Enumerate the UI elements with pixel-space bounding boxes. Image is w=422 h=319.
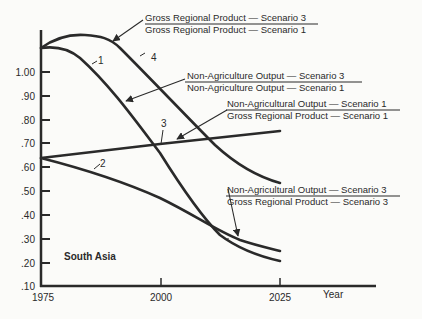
curve-2-number: 2 <box>100 158 106 169</box>
annotation-line: Gross Regional Product — Scenario 1 <box>227 110 388 121</box>
annotation-line: Gross Regional Product — Scenario 3 <box>145 12 306 23</box>
x-tick-labels: 1975 2000 2025 <box>32 292 292 303</box>
y-tick-label: .20 <box>21 258 35 269</box>
y-tick-label: 1.00 <box>16 67 36 78</box>
x-tick-label: 2000 <box>150 292 173 303</box>
y-tick-label: .40 <box>21 210 35 221</box>
annotation-scenario1: Non-Agricultural Output — Scenario 1 Gro… <box>226 98 400 121</box>
x-tick-label: 1975 <box>32 292 55 303</box>
x-axis-title: Year <box>323 289 344 300</box>
annotation-line: Non-Agriculture Output — Scenario 1 <box>187 82 344 93</box>
curve-1-number: 1 <box>98 55 104 66</box>
y-tick-labels: 1.00 .90 .80 .70 .60 .50 .40 .30 .20 .10 <box>16 67 36 292</box>
annotation-nonag: Non-Agriculture Output — Scenario 3 Non-… <box>185 70 362 93</box>
region-label: South Asia <box>64 251 116 262</box>
y-tick-label: .90 <box>21 91 35 102</box>
curve-4-number: 4 <box>151 52 157 63</box>
y-tick-label: .30 <box>21 234 35 245</box>
annotation-line: Non-Agriculture Output — Scenario 3 <box>187 70 344 81</box>
y-tick-label: .80 <box>21 115 35 126</box>
annotation-scenario3: Non-Agricultural Output — Scenario 3 Gro… <box>226 184 400 207</box>
y-tick-label: .50 <box>21 186 35 197</box>
y-ticks <box>41 72 50 263</box>
x-tick-label: 2025 <box>269 292 292 303</box>
series <box>41 35 280 261</box>
annotations: Gross Regional Product — Scenario 3 Gros… <box>145 12 400 207</box>
annotation-line: Gross Regional Product — Scenario 1 <box>145 24 306 35</box>
annotation-grp: Gross Regional Product — Scenario 3 Gros… <box>145 12 318 35</box>
y-tick-label: .70 <box>21 138 35 149</box>
line-chart: 1.00 .90 .80 .70 .60 .50 .40 .30 .20 .10… <box>0 0 422 319</box>
y-tick-label: .60 <box>21 162 35 173</box>
annotation-line: Gross Regional Product — Scenario 3 <box>227 196 388 207</box>
annotation-line: Non-Agricultural Output — Scenario 1 <box>227 98 386 109</box>
y-tick-label: .10 <box>21 281 35 292</box>
arrow-ann1 <box>113 20 143 41</box>
curve-3-number: 3 <box>161 118 167 129</box>
annotation-line: Non-Agricultural Output — Scenario 3 <box>227 184 386 195</box>
